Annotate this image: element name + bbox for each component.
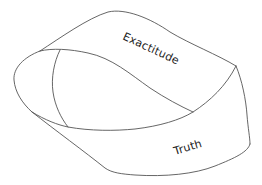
strip-left-outer-edge: [14, 51, 40, 112]
strip-bottom-outer-edge: [32, 112, 250, 176]
strip-right-edge: [236, 66, 250, 144]
mobius-strip-illustration: Exactitude Truth: [0, 0, 262, 185]
strip-bottom-inner-edge: [32, 66, 236, 130]
mobius-diagram: Exactitude Truth: [0, 0, 262, 185]
label-truth: Truth: [171, 137, 203, 158]
strip-inner-twist-edge: [52, 50, 68, 127]
label-exactitude: Exactitude: [121, 30, 181, 67]
